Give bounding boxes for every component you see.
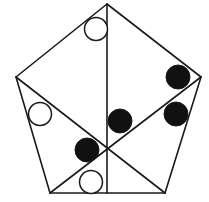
lines-layer xyxy=(16,4,201,193)
open-circle-bottom-icon xyxy=(80,171,103,194)
open-circle-top-icon xyxy=(85,18,108,41)
diagonal-right-to-bottom-left xyxy=(50,77,201,193)
pentagon-diagram xyxy=(0,0,209,202)
open-circle-left-icon xyxy=(29,103,52,126)
diagram-figure xyxy=(0,0,209,202)
edge-top-right xyxy=(107,4,201,77)
edge-left xyxy=(16,77,50,193)
filled-circle-lower-left-icon xyxy=(75,138,99,162)
filled-circle-right-upper-icon xyxy=(166,65,190,89)
edge-right xyxy=(165,77,201,193)
filled-circle-right-lower-icon xyxy=(164,102,188,126)
filled-circle-center-icon xyxy=(108,109,132,133)
